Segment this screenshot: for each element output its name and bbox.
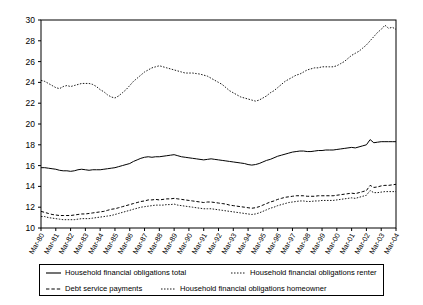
- line-chart-plot: 1012141618202224262830Mar-80Mar-81Mar-82…: [0, 0, 423, 262]
- series-line-3: [41, 191, 396, 220]
- plot-frame: [41, 20, 396, 228]
- y-tick-label: 22: [26, 98, 36, 108]
- y-tick-label: 24: [26, 77, 36, 87]
- y-tick-label: 26: [26, 57, 36, 67]
- series-line-1: [41, 184, 396, 215]
- chart-legend: Household financial obligations total Ho…: [39, 264, 384, 296]
- series-line-2: [41, 25, 396, 101]
- legend-swatch-dashed-icon: [46, 285, 61, 293]
- legend-item-renter[interactable]: Household financial obligations renter: [225, 269, 377, 277]
- legend-item-total[interactable]: Household financial obligations total: [40, 269, 225, 277]
- legend-swatch-solid-icon: [46, 269, 61, 277]
- y-tick-label: 10: [26, 223, 36, 233]
- legend-label-debt-service: Debt service payments: [65, 285, 142, 293]
- legend-row-1: Household financial obligations total Ho…: [40, 265, 383, 281]
- legend-label-total: Household financial obligations total: [65, 269, 186, 277]
- series-line-0: [41, 140, 396, 172]
- legend-item-homeowner[interactable]: Household financial obligations homeowne…: [155, 285, 326, 293]
- y-tick-label: 30: [26, 15, 36, 25]
- y-tick-label: 16: [26, 161, 36, 171]
- legend-label-homeowner: Household financial obligations homeowne…: [180, 285, 326, 293]
- chart-container: 1012141618202224262830Mar-80Mar-81Mar-82…: [0, 0, 423, 305]
- legend-swatch-dotted2-icon: [161, 285, 176, 293]
- y-tick-label: 12: [26, 202, 36, 212]
- legend-row-2: Debt service payments Household financia…: [40, 281, 383, 297]
- legend-item-debt-service[interactable]: Debt service payments: [40, 285, 155, 293]
- y-tick-label: 28: [26, 36, 36, 46]
- legend-swatch-dotted-icon: [231, 269, 246, 277]
- y-tick-label: 18: [26, 140, 36, 150]
- y-tick-label: 14: [26, 181, 36, 191]
- y-tick-label: 20: [26, 119, 36, 129]
- legend-label-renter: Household financial obligations renter: [250, 269, 377, 277]
